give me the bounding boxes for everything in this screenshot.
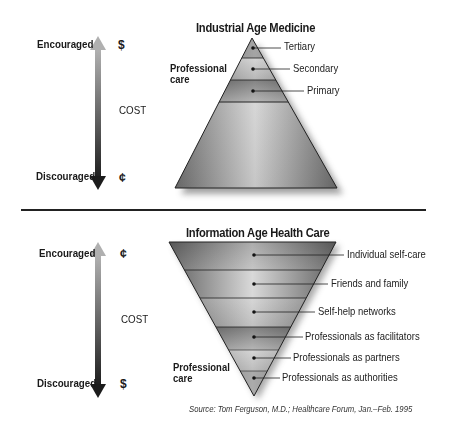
industrial-pyramid — [170, 36, 343, 194]
bottom-cent-symbol: ¢ — [120, 247, 127, 261]
top-encouraged-label: Encouraged — [37, 38, 93, 50]
source-citation: Source: Tom Ferguson, M.D.; Healthcare F… — [189, 404, 412, 414]
top-dollar-symbol: $ — [118, 38, 125, 52]
care-line: care — [173, 373, 230, 384]
bottom-dollar-symbol: $ — [120, 377, 127, 391]
level-primary: Primary — [307, 84, 340, 96]
care-line: care — [170, 74, 227, 85]
level-self-help-networks: Self-help networks — [318, 305, 396, 317]
information-age-title: Information Age Health Care — [186, 225, 330, 240]
section-divider — [21, 209, 426, 211]
bottom-encouraged-label: Encouraged — [39, 247, 95, 259]
level-professionals-facilitators: Professionals as facilitators — [305, 330, 420, 342]
bottom-cost-label: COST — [121, 313, 148, 325]
bottom-discouraged-label: Discouraged — [37, 377, 96, 389]
cost-arrow-bottom — [90, 242, 106, 398]
level-friends-and-family: Friends and family — [331, 277, 408, 289]
top-discouraged-label: Discouraged — [36, 170, 95, 182]
level-individual-self-care: Individual self-care — [347, 248, 426, 260]
level-professionals-partners: Professionals as partners — [293, 351, 400, 363]
top-cost-label: COST — [119, 104, 146, 116]
level-tertiary: Tertiary — [284, 40, 315, 52]
cost-arrow-top — [90, 36, 106, 190]
top-professional-care-label: Professional care — [170, 63, 227, 85]
level-professionals-authorities: Professionals as authorities — [282, 371, 398, 383]
level-secondary: Secondary — [293, 62, 338, 74]
top-cent-symbol: ¢ — [119, 171, 126, 185]
bottom-professional-care-label: Professional care — [173, 362, 230, 384]
industrial-age-title: Industrial Age Medicine — [196, 20, 315, 35]
